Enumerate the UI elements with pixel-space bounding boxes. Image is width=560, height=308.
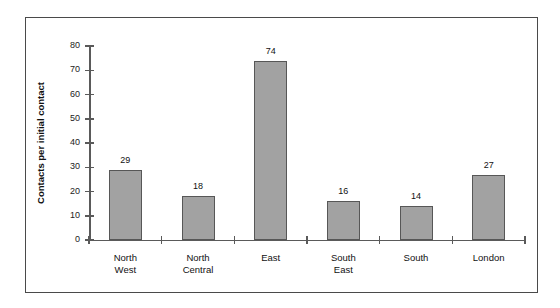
x-axis-category-label: London — [447, 252, 531, 264]
y-axis-tick-label-text: 80 — [58, 41, 80, 50]
y-axis-title-text: Contacts per initial contact — [35, 82, 46, 204]
y-axis-tick — [85, 94, 94, 96]
y-axis-tick-label-text: 50 — [58, 114, 80, 123]
x-axis-tick — [306, 236, 308, 244]
y-axis-tick-label: 0 — [58, 235, 80, 244]
y-axis-tick-label-text: 70 — [58, 65, 80, 74]
y-axis-tick-label: 60 — [58, 90, 80, 99]
x-axis-category-label: South East — [301, 252, 385, 275]
bar-value-label: 74 — [241, 46, 301, 56]
x-axis-tick — [234, 236, 236, 244]
bar — [109, 170, 142, 240]
y-axis-tick — [85, 191, 94, 193]
y-axis-tick-label: 20 — [58, 187, 80, 196]
y-axis-tick-label: 70 — [58, 65, 80, 74]
y-axis-tick — [85, 142, 94, 144]
y-axis-tick-label-text: 20 — [58, 187, 80, 196]
x-axis-tick — [88, 236, 90, 244]
x-axis-tick — [161, 236, 163, 244]
y-axis-tick-label-text: 0 — [58, 235, 80, 244]
x-axis-category-label: North West — [83, 252, 167, 275]
bar-value-label: 29 — [95, 155, 155, 165]
bar — [400, 206, 433, 240]
y-axis-tick — [85, 215, 94, 217]
y-axis-tick-label: 30 — [58, 162, 80, 171]
y-axis-tick — [85, 45, 94, 47]
bar — [254, 61, 287, 240]
y-axis-title: Contacts per initial contact — [33, 46, 47, 240]
y-axis-tick-label: 80 — [58, 41, 80, 50]
y-axis-tick-label: 40 — [58, 138, 80, 147]
x-axis-category-label: South — [374, 252, 458, 264]
x-axis-tick — [379, 236, 381, 244]
bar-chart-figure: Contacts per initial contact 01020304050… — [0, 0, 560, 308]
y-axis-tick-label: 10 — [58, 211, 80, 220]
y-axis-tick — [85, 167, 94, 169]
y-axis-tick-label: 50 — [58, 114, 80, 123]
x-axis-category-label: North Central — [156, 252, 240, 275]
x-axis-category-label: East — [229, 252, 313, 264]
x-axis-tick — [452, 236, 454, 244]
bar — [182, 196, 215, 240]
x-axis-tick — [524, 236, 526, 244]
y-axis-tick-label-text: 10 — [58, 211, 80, 220]
y-axis-tick-label-text: 40 — [58, 138, 80, 147]
y-axis-tick — [85, 118, 94, 120]
y-axis-tick — [85, 70, 94, 72]
bar-value-label: 14 — [386, 191, 446, 201]
bar — [472, 175, 505, 240]
y-axis-tick-label-text: 60 — [58, 90, 80, 99]
y-axis-tick-label-text: 30 — [58, 162, 80, 171]
bar-value-label: 27 — [459, 160, 519, 170]
bar — [327, 201, 360, 240]
bar-value-label: 18 — [168, 181, 228, 191]
bar-value-label: 16 — [313, 186, 373, 196]
plot-area: Contacts per initial contact 01020304050… — [0, 0, 560, 308]
